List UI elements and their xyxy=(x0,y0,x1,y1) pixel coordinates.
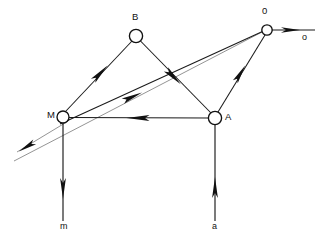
axis-label-o: o xyxy=(302,33,307,42)
arrowhead-b-to-a xyxy=(164,67,183,86)
arrowhead-diagonal-to-o xyxy=(122,90,144,104)
edge-b-to-a xyxy=(141,41,212,113)
arrowhead-m-to-b xyxy=(91,63,110,82)
node-a[interactable] xyxy=(208,111,221,124)
node-b[interactable] xyxy=(129,29,142,42)
vector-graphics-layer xyxy=(0,0,325,246)
axis-label-a: a xyxy=(212,222,217,231)
edge-diagonal-to-node-o xyxy=(60,32,263,125)
node-label-o: 0 xyxy=(262,6,267,16)
diagram-canvas: B 0 M A o m a xyxy=(0,0,325,246)
axis-label-m: m xyxy=(60,222,68,231)
node-label-b: B xyxy=(132,12,138,22)
edge-diagonal-lower-left-faint xyxy=(14,32,262,161)
node-m[interactable] xyxy=(57,111,69,123)
node-label-m: M xyxy=(47,110,55,120)
node-o[interactable] xyxy=(262,25,272,35)
node-label-a: A xyxy=(225,112,231,122)
